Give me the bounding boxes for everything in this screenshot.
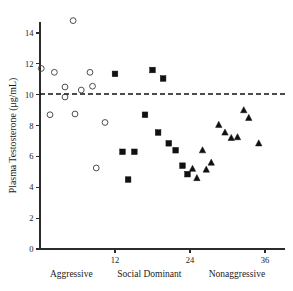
data-point-triangle (199, 147, 205, 153)
data-point-triangle (241, 107, 247, 113)
data-point-square (160, 76, 166, 82)
series-social-dominant (112, 67, 190, 182)
data-point-triangle (208, 159, 214, 165)
y-tick-label-4: 4 (29, 182, 34, 192)
data-point-circle (72, 111, 78, 117)
x-tick-label-36: 36 (261, 255, 270, 265)
data-point-circle (78, 87, 84, 93)
y-tick-label-2: 2 (29, 213, 33, 223)
data-point-square (150, 67, 156, 73)
data-point-triangle (234, 134, 240, 140)
data-point-circle (47, 112, 53, 118)
data-point-triangle (256, 140, 262, 146)
data-point-triangle (222, 129, 228, 135)
series-nonaggressive (189, 107, 262, 181)
y-tick-label-6: 6 (29, 151, 33, 161)
data-point-circle (70, 18, 76, 24)
scatter-plot-figure: 02468101214122436AggressiveSocial Domina… (0, 0, 293, 291)
data-point-square (132, 149, 138, 155)
data-point-square (185, 171, 191, 177)
data-point-triangle (189, 165, 195, 171)
y-tick-label-14: 14 (25, 28, 34, 38)
data-point-square (173, 147, 179, 153)
data-point-triangle (228, 134, 234, 140)
data-point-triangle (203, 166, 209, 172)
data-point-square (120, 149, 126, 155)
data-point-triangle (216, 121, 222, 127)
data-point-circle (87, 69, 93, 75)
group-label-aggressive: Aggressive (50, 269, 93, 279)
group-label-social-dominant: Social Dominant (117, 269, 181, 279)
x-tick-label-12: 12 (111, 255, 120, 265)
data-point-square (125, 177, 131, 183)
y-tick-label-10: 10 (25, 90, 34, 100)
data-point-circle (102, 120, 108, 126)
data-point-square (180, 163, 186, 169)
data-point-square (166, 141, 172, 147)
y-tick-label-8: 8 (29, 121, 33, 131)
data-point-circle (62, 94, 68, 100)
data-point-circle (38, 66, 44, 72)
data-point-circle (90, 83, 96, 89)
data-point-triangle (246, 114, 252, 120)
data-point-circle (62, 84, 68, 90)
y-tick-label-12: 12 (25, 59, 34, 69)
data-point-circle (51, 69, 57, 75)
x-tick-label-24: 24 (186, 255, 195, 265)
y-tick-label-0: 0 (29, 244, 33, 254)
data-point-square (112, 71, 118, 77)
plot-canvas: 02468101214122436AggressiveSocial Domina… (0, 0, 293, 291)
data-point-triangle (194, 175, 200, 181)
data-point-circle (93, 165, 99, 171)
group-label-nonaggressive: Nonaggressive (209, 269, 265, 279)
data-point-square (142, 112, 148, 118)
data-point-square (155, 130, 161, 136)
y-axis-title: Plasma Testosterone (μg/mL) (7, 78, 19, 193)
